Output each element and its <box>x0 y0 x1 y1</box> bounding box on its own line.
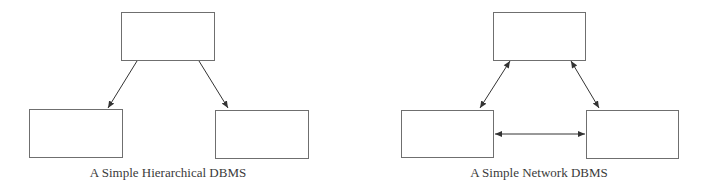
arrow-top-to-bottom-right <box>571 61 599 108</box>
diagram-canvas: A Simple Hierarchical DBMS A Simple Netw… <box>0 0 702 189</box>
arrow-top-to-bottom-left <box>480 61 510 108</box>
network-top-node <box>493 12 586 61</box>
hierarchical-child-left-node <box>29 109 123 158</box>
network-bottom-left-node <box>401 110 494 158</box>
arrow-root-to-child-right <box>199 61 228 108</box>
hierarchical-child-right-node <box>215 110 309 159</box>
network-bottom-right-node <box>586 110 679 159</box>
hierarchical-caption: A Simple Hierarchical DBMS <box>90 165 246 181</box>
hierarchical-root-node <box>121 12 215 61</box>
edges-layer <box>0 0 702 189</box>
arrow-root-to-child-left <box>108 61 137 108</box>
network-caption: A Simple Network DBMS <box>470 165 608 181</box>
